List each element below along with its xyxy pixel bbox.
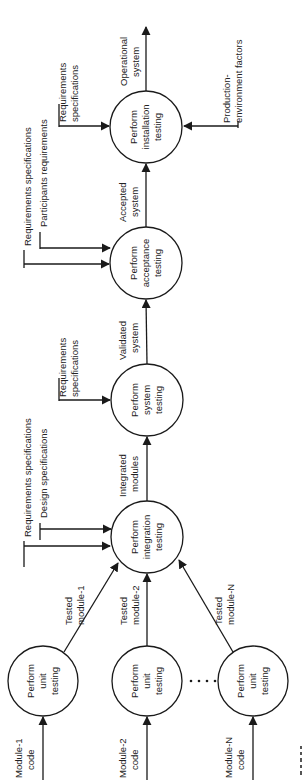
node-label-line: testing bbox=[153, 523, 164, 551]
svg-text:Module-1: Module-1 bbox=[13, 738, 24, 778]
svg-text:environment factors: environment factors bbox=[233, 39, 244, 123]
svg-text:Production-: Production- bbox=[221, 74, 232, 123]
svg-text:module-2: module-2 bbox=[130, 585, 141, 625]
svg-text:Tested: Tested bbox=[63, 597, 74, 625]
node-acceptance-testing: Perform acceptance testing bbox=[110, 227, 182, 299]
node-label-line: installation bbox=[140, 105, 151, 150]
integrated-modules-label: Integrated modules bbox=[117, 454, 140, 497]
acceptance-req-spec-label: Requirements specifications bbox=[22, 127, 33, 246]
node-integration-testing: Perform integration testing bbox=[111, 501, 183, 573]
node-label-line: testing bbox=[153, 667, 164, 695]
installation-req-spec-label: Requirements specifications bbox=[57, 63, 80, 122]
integration-design-spec-label: Design specifications bbox=[38, 429, 49, 518]
svg-text:system: system bbox=[129, 323, 140, 353]
node-label-line: Perform bbox=[128, 246, 139, 280]
svg-text:Requirements: Requirements bbox=[57, 63, 68, 122]
node-installation-testing: Perform installation testing bbox=[110, 91, 182, 163]
production-env-label: Production- environment factors bbox=[221, 39, 244, 123]
svg-text:Integrated: Integrated bbox=[117, 454, 128, 497]
node-unit-testing-1: Perform unit testing bbox=[8, 646, 78, 716]
svg-text:Tested: Tested bbox=[118, 597, 129, 625]
node-label-line: Perform bbox=[129, 383, 140, 417]
module-2-code-label: Module-2 code bbox=[117, 738, 140, 778]
node-label-line: testing bbox=[152, 113, 163, 141]
node-label-line: unit bbox=[37, 673, 48, 689]
acceptance-participants-label: Participants requirements bbox=[38, 119, 49, 227]
node-label-line: integration bbox=[141, 515, 152, 559]
node-label-line: unit bbox=[247, 673, 258, 689]
svg-text:system: system bbox=[129, 187, 140, 217]
integration-req-spec-label: Requirements specifications bbox=[22, 418, 33, 537]
tested-module-2-label: Tested module-2 bbox=[118, 585, 141, 625]
node-label-line: system bbox=[141, 385, 152, 415]
testing-process-diagram: Perform installation testing Perform acc… bbox=[0, 0, 304, 780]
node-label-line: Perform bbox=[128, 110, 139, 144]
module-1-code-label: Module-1 code bbox=[13, 738, 36, 778]
node-system-testing: Perform system testing bbox=[111, 364, 183, 436]
ellipsis-dots bbox=[190, 680, 217, 683]
svg-text:code: code bbox=[129, 749, 140, 770]
tested-module-1-label: Tested module-1 bbox=[63, 585, 86, 625]
svg-text:Operational: Operational bbox=[118, 37, 129, 86]
system-req-spec-label: Requirements specifications bbox=[57, 338, 80, 397]
svg-text:specifications: specifications bbox=[69, 65, 80, 122]
svg-text:modules: modules bbox=[129, 456, 140, 492]
svg-text:Module-2: Module-2 bbox=[117, 738, 128, 778]
node-label-line: Perform bbox=[129, 664, 140, 698]
tested-module-n-label: Tested module-N bbox=[213, 584, 236, 625]
node-label-line: Perform bbox=[129, 520, 140, 554]
svg-text:specifications: specifications bbox=[69, 340, 80, 397]
svg-text:system: system bbox=[130, 47, 141, 77]
svg-text:Accepted: Accepted bbox=[117, 182, 128, 222]
operational-system-label: Operational system bbox=[118, 37, 141, 86]
svg-text:module-N: module-N bbox=[225, 584, 236, 625]
svg-text:Module-N: Module-N bbox=[223, 737, 234, 778]
svg-text:code: code bbox=[25, 749, 36, 770]
clipped-figure-caption bbox=[300, 746, 302, 775]
node-label-line: testing bbox=[152, 249, 163, 277]
node-label-line: Perform bbox=[235, 664, 246, 698]
svg-text:Tested: Tested bbox=[213, 597, 224, 625]
validated-system-label: Validated system bbox=[117, 321, 140, 360]
node-label-line: testing bbox=[153, 386, 164, 414]
node-label-line: testing bbox=[49, 667, 60, 695]
node-unit-testing-n: Perform unit testing bbox=[218, 646, 288, 716]
validated-system-arrow bbox=[146, 300, 147, 364]
accepted-system-label: Accepted system bbox=[117, 182, 140, 222]
svg-text:Validated: Validated bbox=[117, 321, 128, 360]
svg-text:code: code bbox=[235, 749, 246, 770]
node-label-line: acceptance bbox=[140, 239, 151, 288]
node-label-line: unit bbox=[141, 673, 152, 689]
node-label-line: Perform bbox=[25, 664, 36, 698]
svg-text:Requirements: Requirements bbox=[57, 338, 68, 397]
node-unit-testing-2: Perform unit testing bbox=[112, 646, 182, 716]
module-n-code-label: Module-N code bbox=[223, 737, 246, 778]
node-label-line: testing bbox=[259, 667, 270, 695]
svg-text:module-1: module-1 bbox=[75, 585, 86, 625]
